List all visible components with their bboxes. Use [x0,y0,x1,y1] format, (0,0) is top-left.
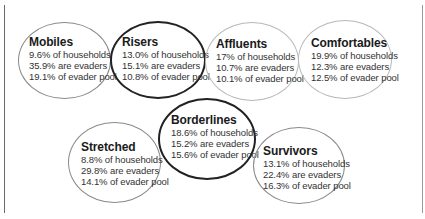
pool-stat: 12.5% of evader pool [311,72,399,83]
households-stat: 9.6% of households [29,49,117,60]
segment-title: Risers [122,36,210,49]
pool-stat: 19.1% of evader pool [29,71,117,82]
segment-borderlines: Borderlines 18.6% of households 15.2% ar… [171,114,259,160]
households-stat: 13.1% of households [263,158,351,169]
households-stat: 18.6% of households [171,127,259,138]
segment-risers: Risers 13.0% of households 15.1% are eva… [122,36,210,82]
evaders-stat: 10.7% are evaders [216,62,304,73]
segment-survivors: Survivors 13.1% of households 22.4% are … [263,145,351,191]
households-stat: 13.0% of households [122,49,210,60]
pool-stat: 16.3% of evader pool [263,180,351,191]
pool-stat: 14.1% of evader pool [81,176,169,187]
left-rule [4,5,5,213]
segment-title: Stretched [81,141,169,154]
pool-stat: 10.8% of evader pool [122,71,210,82]
households-stat: 8.8% of households [81,154,169,165]
households-stat: 17% of households [216,51,304,62]
segment-title: Comfortables [311,37,399,50]
segment-title: Borderlines [171,114,259,127]
pool-stat: 10.1% of evader pool [216,73,304,84]
evaders-stat: 15.2% are evaders [171,138,259,149]
segment-title: Mobiles [29,36,117,49]
segment-comfortables: Comfortables 19.9% of households 12.3% a… [311,37,399,83]
evaders-stat: 15.1% are evaders [122,60,210,71]
evaders-stat: 22.4% are evaders [263,169,351,180]
pool-stat: 15.6% of evader pool [171,149,259,160]
households-stat: 19.9% of households [311,50,399,61]
segment-stretched: Stretched 8.8% of households 29.8% are e… [81,141,169,187]
evaders-stat: 35.9% are evaders [29,60,117,71]
segment-title: Survivors [263,145,351,158]
segment-mobiles: Mobiles 9.6% of households 35.9% are eva… [29,36,117,82]
segment-title: Affluents [216,38,304,51]
right-rule [422,5,423,213]
evaders-stat: 12.3% are evaders [311,61,399,72]
segment-affluents: Affluents 17% of households 10.7% are ev… [216,38,304,84]
evaders-stat: 29.8% are evaders [81,165,169,176]
